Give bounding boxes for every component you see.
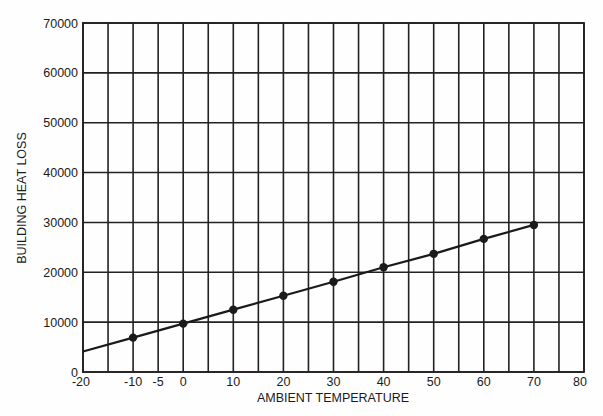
- data-series: [83, 221, 538, 352]
- y-axis-tick-labels: 010000200003000040000500006000070000: [43, 17, 78, 380]
- x-tick-label: 20: [276, 375, 290, 389]
- x-tick-label: -5: [153, 375, 164, 389]
- data-point-marker: [329, 278, 337, 286]
- data-point-marker: [229, 305, 237, 313]
- y-tick-label: 60000: [43, 66, 78, 80]
- x-tick-label: 70: [527, 375, 541, 389]
- data-point-marker: [480, 235, 488, 243]
- data-point-marker: [279, 292, 287, 300]
- x-tick-label: 10: [226, 375, 240, 389]
- y-tick-label: 10000: [43, 316, 78, 330]
- x-tick-label: 50: [427, 375, 441, 389]
- data-point-marker: [379, 263, 387, 271]
- grid: [82, 23, 584, 372]
- line-chart: -20-10-501020304050607080 01000020000300…: [0, 0, 603, 416]
- y-tick-label: 0: [71, 366, 78, 380]
- x-axis-title: AMBIENT TEMPERATURE: [257, 391, 409, 405]
- chart: -20-10-501020304050607080 01000020000300…: [0, 0, 603, 416]
- data-point-marker: [530, 221, 538, 229]
- x-tick-label: 80: [573, 375, 587, 389]
- data-point-marker: [129, 333, 137, 341]
- x-tick-label: 60: [477, 375, 491, 389]
- x-tick-label: 0: [180, 375, 187, 389]
- x-tick-label: -10: [124, 375, 142, 389]
- data-point-marker: [179, 319, 187, 327]
- x-tick-label: 40: [377, 375, 391, 389]
- y-tick-label: 40000: [43, 166, 78, 180]
- x-tick-label: 30: [327, 375, 341, 389]
- y-tick-label: 30000: [43, 216, 78, 230]
- y-tick-label: 70000: [43, 17, 78, 31]
- y-axis-title: BUILDING HEAT LOSS: [15, 132, 29, 264]
- x-axis-tick-labels: -20-10-501020304050607080: [72, 375, 587, 389]
- y-tick-label: 50000: [43, 116, 78, 130]
- y-tick-label: 20000: [43, 266, 78, 280]
- data-point-marker: [430, 250, 438, 258]
